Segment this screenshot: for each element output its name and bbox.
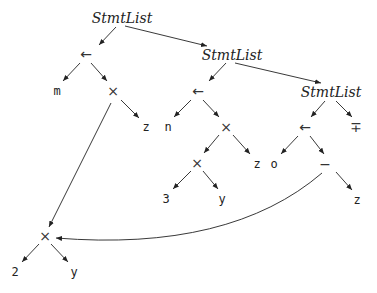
node-as3: ← <box>299 120 311 134</box>
edge-arrow <box>311 101 325 117</box>
node-y2: y <box>70 266 77 278</box>
node-pm: ∓ <box>350 120 362 134</box>
node-c3: 3 <box>162 193 169 205</box>
node-sl3: StmtList <box>301 85 362 99</box>
node-mul2: × <box>220 120 232 134</box>
node-mul3: × <box>191 156 203 170</box>
node-as2: ← <box>192 84 204 98</box>
node-m: m <box>53 85 60 97</box>
node-minus: − <box>319 157 331 171</box>
edge-arrow <box>22 244 39 262</box>
edge-arrow <box>125 26 207 46</box>
edge-arrow <box>233 135 250 154</box>
edge-arrow <box>49 103 111 227</box>
node-mul1: × <box>107 84 119 98</box>
edge-arrow <box>204 135 219 153</box>
edge-arrow <box>281 136 298 154</box>
edge-arrow <box>203 171 218 189</box>
edge-arrow <box>203 100 219 117</box>
node-as1: ← <box>80 47 92 61</box>
node-z1: z <box>142 121 149 133</box>
node-mul4: × <box>39 229 51 243</box>
node-o: o <box>270 158 277 170</box>
edge-arrow <box>336 101 352 117</box>
edge-arrow <box>174 100 191 117</box>
edge-arrow <box>235 63 321 83</box>
edge-arrow <box>336 172 352 190</box>
edge-arrow <box>173 171 191 189</box>
node-sl1: StmtList <box>92 11 153 25</box>
edge-arrow <box>51 244 68 262</box>
node-z3: z <box>353 194 360 206</box>
node-n: n <box>164 121 171 133</box>
edge-layer <box>0 0 377 293</box>
node-y1: y <box>218 193 225 205</box>
edge-arrow <box>121 100 139 118</box>
ast-diagram: StmtList←m×zStmtList←n×z×3yStmtList←∓o−z… <box>0 0 377 293</box>
edge-arrow <box>99 27 116 45</box>
edge-arrow <box>91 63 107 81</box>
node-c2: 2 <box>11 266 18 278</box>
edge-arrow <box>63 63 80 81</box>
node-sl2: StmtList <box>202 48 263 62</box>
edge-arrow <box>209 63 226 81</box>
curved-edge-arrow <box>56 173 322 240</box>
edge-arrow <box>310 136 324 154</box>
node-z2: z <box>253 158 260 170</box>
